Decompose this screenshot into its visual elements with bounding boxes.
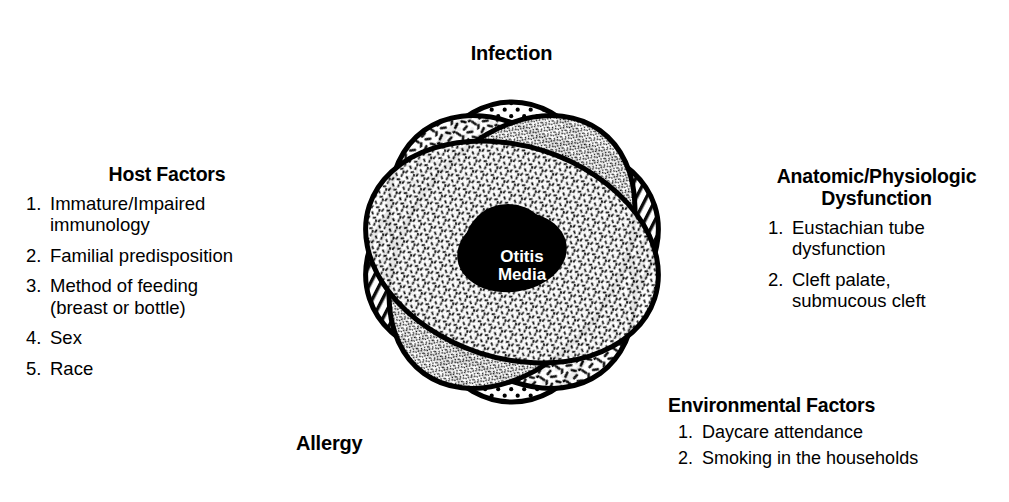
anatomic-dysfunction-list: 1. Eustachian tube dysfunction 2. Cleft … — [768, 217, 1009, 312]
list-item-number: 2. — [768, 269, 792, 312]
list-item: 1. Eustachian tube dysfunction — [768, 217, 1009, 260]
environmental-factors-list: 1. Daycare attendance 2. Smoking in the … — [678, 422, 1009, 469]
list-item: 1. Immature/Impaired immunology — [26, 193, 314, 236]
list-item: 2. Familial predisposition — [26, 245, 314, 266]
list-item-number: 2. — [678, 448, 702, 469]
anatomic-dysfunction-title: Anatomic/Physiologic Dysfunction — [744, 166, 1009, 210]
list-item-number: 4. — [26, 327, 50, 348]
list-item-number: 3. — [26, 275, 50, 318]
host-factors-list: 1. Immature/Impaired immunology 2. Famil… — [26, 193, 314, 379]
list-item-text: Cleft palate, submucous cleft — [792, 269, 926, 312]
list-item-text: Daycare attendance — [702, 422, 863, 443]
list-item: 1. Daycare attendance — [678, 422, 1009, 443]
list-item-text: Familial predisposition — [50, 245, 233, 266]
list-item: 2. Cleft palate, submucous cleft — [768, 269, 1009, 312]
list-item-text: Method of feeding (breast or bottle) — [50, 275, 198, 318]
otitis-media-venn-figure: Infection Allergy Host Factors 1. Immatu… — [0, 0, 1009, 502]
host-factors-block: Host Factors 1. Immature/Impaired immuno… — [14, 164, 314, 379]
list-item-text: Race — [50, 358, 93, 379]
list-item-number: 2. — [26, 245, 50, 266]
list-item-number: 1. — [768, 217, 792, 260]
list-item: 5. Race — [26, 358, 314, 379]
list-item: 4. Sex — [26, 327, 314, 348]
list-item-number: 5. — [26, 358, 50, 379]
anatomic-dysfunction-block: Anatomic/Physiologic Dysfunction 1. Eust… — [744, 166, 1009, 311]
host-factors-title: Host Factors — [20, 164, 314, 186]
list-item-text: Smoking in the households — [702, 448, 918, 469]
list-item: 3. Method of feeding (breast or bottle) — [26, 275, 314, 318]
list-item-number: 1. — [26, 193, 50, 236]
list-item: 2. Smoking in the households — [678, 448, 1009, 469]
venn-diagram — [300, 48, 724, 448]
list-item-text: Eustachian tube dysfunction — [792, 217, 925, 260]
venn-center-core-blend — [464, 204, 552, 292]
list-item-text: Sex — [50, 327, 82, 348]
list-item-text: Immature/Impaired immunology — [50, 193, 205, 236]
